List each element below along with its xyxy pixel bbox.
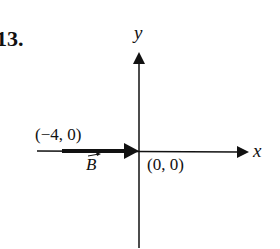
- x-axis-label: x: [253, 140, 261, 162]
- x-axis-arrowhead-icon: [237, 146, 249, 158]
- vector-b-arrowhead-icon: [124, 143, 139, 159]
- y-axis-label: y: [134, 22, 142, 44]
- end-point-label: (0, 0): [147, 155, 184, 175]
- y-axis-arrowhead-icon: [133, 52, 145, 64]
- vector-arrow-accent-icon: [86, 151, 102, 159]
- vector-b-label: B: [86, 155, 96, 175]
- start-point-label: (−4, 0): [35, 125, 81, 145]
